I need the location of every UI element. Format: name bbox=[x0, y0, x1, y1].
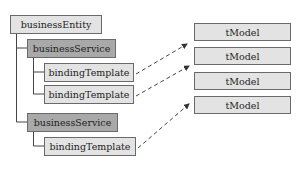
binding-template-label: bindingTemplate bbox=[48, 89, 129, 100]
business-service-box-2: businessService bbox=[27, 113, 118, 132]
binding-template-label: bindingTemplate bbox=[49, 141, 130, 152]
business-entity-label: businessEntity bbox=[21, 19, 92, 30]
tmodel-label: tModel bbox=[225, 27, 259, 38]
reference-arrows bbox=[136, 44, 189, 148]
binding-template-box-1: bindingTemplate bbox=[44, 63, 134, 82]
tmodel-box-4: tModel bbox=[194, 96, 291, 114]
tmodel-label: tModel bbox=[225, 76, 259, 87]
entity-trunk-line bbox=[17, 33, 28, 122]
service2-to-template3-line bbox=[34, 131, 45, 146]
business-service-label: businessService bbox=[33, 43, 111, 54]
arrow-template3-to-tmodel4 bbox=[138, 104, 189, 148]
tmodel-box-2: tModel bbox=[194, 47, 291, 65]
arrow-template2-to-tmodel2 bbox=[136, 66, 189, 96]
tmodel-box-3: tModel bbox=[194, 72, 291, 90]
binding-template-label: bindingTemplate bbox=[48, 67, 129, 78]
arrow-template1-to-tmodel1 bbox=[136, 44, 187, 74]
business-service-label: businessService bbox=[34, 117, 112, 128]
tmodel-box-1: tModel bbox=[194, 23, 291, 41]
business-service-box-1: businessService bbox=[27, 39, 116, 58]
tmodel-label: tModel bbox=[225, 51, 259, 62]
tmodel-label: tModel bbox=[225, 100, 259, 111]
binding-template-box-3: bindingTemplate bbox=[44, 137, 136, 156]
binding-template-box-2: bindingTemplate bbox=[44, 85, 134, 104]
business-entity-box: businessEntity bbox=[10, 15, 102, 34]
service1-trunk-line bbox=[34, 57, 45, 94]
